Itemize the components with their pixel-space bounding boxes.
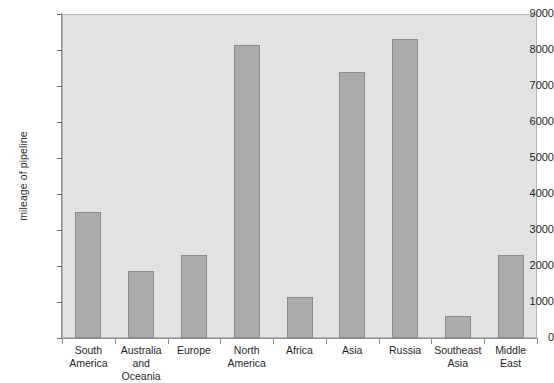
x-axis-tick [168,339,169,344]
x-axis-tick [273,339,274,344]
x-axis-label-line: Africa [273,344,326,357]
bar [392,39,418,338]
bar-series [62,14,537,338]
bar [445,316,471,338]
x-axis-tick [115,339,116,344]
bar [234,45,260,338]
x-axis-label-line: Russia [379,344,432,357]
x-axis-category-labels: SouthAmericaAustraliaand OceaniaEuropeNo… [62,344,537,378]
x-axis-label-line: North [220,344,273,357]
bar [181,255,207,338]
x-axis-category-label: NorthAmerica [220,344,273,370]
x-axis-category-label: Russia [379,344,432,357]
x-axis-line [61,338,538,339]
x-axis-category-label: SouthAmerica [62,344,115,370]
x-axis-label-line: Southeast [431,344,484,357]
x-axis-tick [326,339,327,344]
bar [339,72,365,338]
x-axis-category-label: Australiaand Oceania [115,344,168,383]
x-axis-tick [431,339,432,344]
x-axis-label-line: and Oceania [115,357,168,383]
bar [75,212,101,338]
x-axis-tick [62,339,63,344]
x-axis-category-label: Africa [273,344,326,357]
x-axis-label-line: South [62,344,115,357]
x-axis-label-line: Europe [168,344,221,357]
x-axis-label-line: Asia [431,357,484,370]
x-axis-category-label: MiddleEast [484,344,537,370]
x-axis-tick [537,339,538,344]
x-axis-label-line: America [220,357,273,370]
x-axis-label-line: Middle [484,344,537,357]
x-axis-tick [484,339,485,344]
x-axis-tick [379,339,380,344]
bar [498,255,524,338]
bar [287,297,313,338]
x-axis-label-line: East [484,357,537,370]
x-axis-label-line: America [62,357,115,370]
x-axis-category-label: Europe [168,344,221,357]
x-axis-category-label: SoutheastAsia [431,344,484,370]
x-axis-category-label: Asia [326,344,379,357]
bar [128,271,154,338]
x-axis-tick [220,339,221,344]
x-axis-label-line: Australia [115,344,168,357]
x-axis-label-line: Asia [326,344,379,357]
y-axis-title: mileage of pipeline [14,14,32,338]
